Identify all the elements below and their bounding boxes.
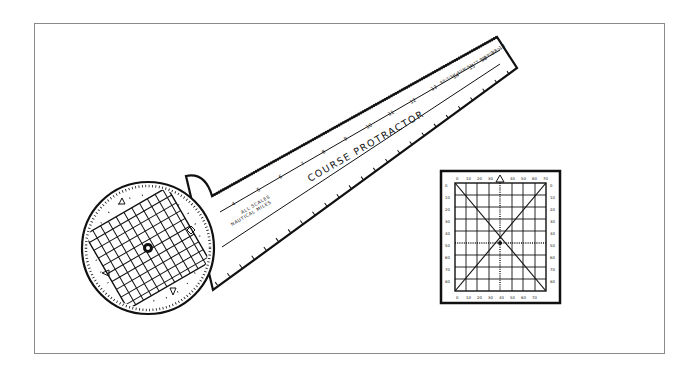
scale-label: 50 bbox=[445, 243, 450, 248]
navigation-tools-drawing: 4 5 6 7 8 9 10 11 12 13 14 15 16 17 18 C… bbox=[0, 0, 698, 376]
scale-label: 20 bbox=[477, 295, 482, 300]
scale-label: 80 bbox=[550, 279, 555, 284]
scale-label: 10 bbox=[445, 195, 450, 200]
scale-label: 20 bbox=[445, 207, 450, 212]
scale-label: 60 bbox=[550, 255, 555, 260]
scale-label: 60 bbox=[521, 295, 526, 300]
scale-label: 40 bbox=[499, 295, 504, 300]
scale-label: 40 bbox=[510, 176, 515, 181]
square-left-labels: 0 10 20 30 40 50 60 70 80 bbox=[445, 183, 450, 284]
scale-label: 60 bbox=[445, 255, 450, 260]
scale-label: 40 bbox=[445, 231, 450, 236]
scale-label: 10 bbox=[466, 295, 471, 300]
scale-label: 30 bbox=[550, 219, 555, 224]
scale-label: 80 bbox=[445, 279, 450, 284]
compass-rose-disc bbox=[82, 182, 214, 314]
scale-label: 70 bbox=[532, 295, 537, 300]
scale-label: 40 bbox=[550, 231, 555, 236]
scale-label: 20 bbox=[477, 176, 482, 181]
scale-label: 70 bbox=[550, 267, 555, 272]
scale-label: 20 bbox=[550, 207, 555, 212]
scale-label: 50 bbox=[510, 295, 515, 300]
scale-label: 70 bbox=[543, 176, 548, 181]
scale-label: 30 bbox=[488, 295, 493, 300]
scale-label: 50 bbox=[521, 176, 526, 181]
scale-label: 70 bbox=[445, 267, 450, 272]
square-right-labels: 0 10 20 30 40 50 60 70 80 bbox=[550, 183, 555, 284]
square-protractor: 0 10 20 30 40 50 60 70 0 10 20 30 40 50 … bbox=[441, 171, 560, 303]
scale-label: 50 bbox=[550, 243, 555, 248]
scale-label: 60 bbox=[532, 176, 537, 181]
scale-label: 10 bbox=[466, 176, 471, 181]
scale-label: 30 bbox=[445, 219, 450, 224]
scale-label: 10 bbox=[550, 195, 555, 200]
scale-label: 30 bbox=[488, 176, 493, 181]
